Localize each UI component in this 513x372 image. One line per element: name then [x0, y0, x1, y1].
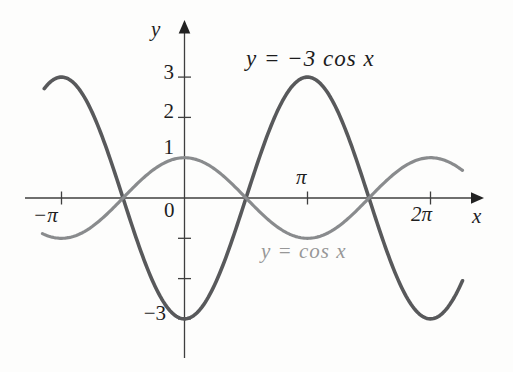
curve-label-neg3cosx: y = −3 cos x [246, 47, 375, 70]
x-tick-label-negpi: −π [33, 205, 58, 226]
y-tick-label-2: 2 [140, 101, 174, 122]
x-tick-label-2pi: 2π [411, 204, 432, 225]
y-axis-arrowhead-icon [179, 20, 191, 34]
x-tick-label-pi: π [296, 167, 307, 188]
origin-label: 0 [164, 200, 175, 221]
x-axis-arrowhead-icon [471, 192, 484, 204]
y-axis-label: y [151, 19, 160, 40]
curve-label-cosx: y = cos x [261, 241, 347, 262]
x-axis-label: x [472, 206, 481, 227]
figure: 3 2 1 −3 −π π 2π y x 0 y = −3 cos x y = … [0, 0, 513, 372]
y-tick-label-3: 3 [140, 62, 174, 83]
y-tick-label-neg3: −3 [132, 303, 166, 324]
y-tick-label-1: 1 [140, 137, 174, 158]
